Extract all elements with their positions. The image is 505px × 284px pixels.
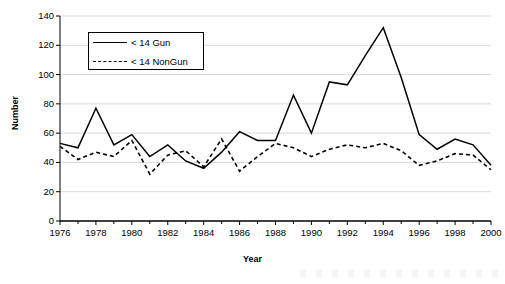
x-tick-label: 1980 [112, 228, 152, 238]
y-tick-label: 60 [16, 128, 54, 138]
x-tick-label: 1994 [363, 228, 403, 238]
legend-item-gun: < 14 Gun [89, 33, 203, 52]
x-axis-title: Year [0, 254, 505, 264]
y-tick-label: 80 [16, 99, 54, 109]
x-tick-label: 1992 [327, 228, 367, 238]
x-tick-label: 1982 [148, 228, 188, 238]
x-tick-label: 2000 [471, 228, 505, 238]
x-tick-label: 1990 [291, 228, 331, 238]
y-axis-title: Number [10, 78, 20, 148]
x-tick-label: 1986 [220, 228, 260, 238]
line-chart: 020406080100120140 197619781980198219841… [0, 0, 505, 284]
legend-item-nongun: < 14 NonGun [89, 52, 203, 71]
legend-solid-line-icon [89, 37, 131, 49]
series-line-nongun [60, 139, 491, 174]
x-tick-label: 1984 [184, 228, 224, 238]
x-tick-label: 1988 [256, 228, 296, 238]
y-tick-label: 40 [16, 157, 54, 167]
legend-label-nongun: < 14 NonGun [131, 56, 188, 67]
legend-label-gun: < 14 Gun [131, 37, 170, 48]
x-tick-label: 1978 [76, 228, 116, 238]
x-tick-label: 1996 [399, 228, 439, 238]
y-tick-label: 100 [16, 70, 54, 80]
plot-area [0, 0, 505, 284]
y-tick-label: 120 [16, 40, 54, 50]
y-tick-label: 20 [16, 187, 54, 197]
y-tick-label: 140 [16, 11, 54, 21]
y-tick-label: 0 [16, 216, 54, 226]
legend-dashed-line-icon [89, 56, 131, 68]
x-tick-label: 1976 [40, 228, 80, 238]
scan-artifact [300, 270, 500, 278]
legend: < 14 Gun < 14 NonGun [88, 32, 204, 70]
x-tick-label: 1998 [435, 228, 475, 238]
